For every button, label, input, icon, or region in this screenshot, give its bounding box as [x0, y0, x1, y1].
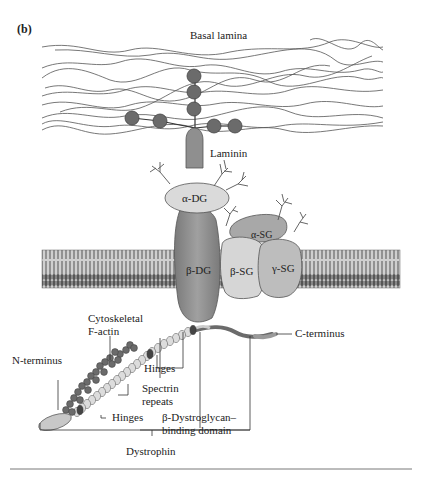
label-repeats: repeats — [142, 395, 173, 408]
diagram-canvas — [0, 0, 422, 481]
label-dystrophin: Dystrophin — [126, 445, 176, 458]
label-laminin: Laminin — [210, 147, 247, 160]
label-beta-dg: β-DG — [186, 264, 211, 277]
label-hinges-upper: Hinges — [144, 362, 175, 375]
label-n-terminus: N-terminus — [12, 354, 62, 367]
label-f-actin: F-actin — [88, 325, 119, 338]
label-beta-sg: β-SG — [230, 265, 253, 278]
f-actin-filament — [63, 342, 138, 416]
dystrophin-complex-diagram: (b) Basal lamina Laminin α-DG β-DG α-SG … — [0, 0, 422, 481]
label-alpha-sg: α-SG — [251, 228, 272, 241]
panel-label: (b) — [17, 23, 32, 36]
label-bdg-binding-line1: β-Dystroglycan– — [162, 411, 236, 424]
label-basal-lamina: Basal lamina — [190, 29, 247, 42]
laminin-globules — [125, 69, 242, 133]
label-cytoskeletal-line1: Cytoskeletal — [88, 312, 143, 325]
label-gamma-sg: γ-SG — [272, 262, 295, 275]
label-bdg-binding-line2: binding domain — [162, 424, 231, 437]
label-c-terminus: C-terminus — [295, 327, 345, 340]
laminin-stalk — [186, 128, 203, 168]
label-spectrin: Spectrin — [142, 382, 179, 395]
label-alpha-dg: α-DG — [182, 192, 207, 205]
label-hinges-lower: Hinges — [112, 411, 143, 424]
